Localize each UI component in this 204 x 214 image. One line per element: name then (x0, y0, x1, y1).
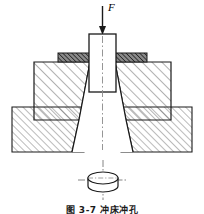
force-arrow (99, 6, 106, 35)
punching-die-drawing: F (0, 0, 204, 214)
sheet-strip-right (113, 53, 147, 62)
punched-slug (78, 160, 128, 200)
figure-root: F (0, 0, 204, 214)
sheet-strip-left (58, 53, 92, 62)
force-label: F (107, 1, 115, 13)
figure-caption: 图 3-7 冲床冲孔 (0, 205, 204, 214)
